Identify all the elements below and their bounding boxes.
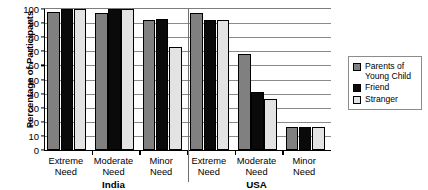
- bar: [312, 127, 325, 150]
- legend: Parents of Young ChildFriendStranger: [348, 56, 422, 110]
- bar: [74, 9, 87, 150]
- bar: [95, 13, 108, 150]
- bar-group: [283, 9, 331, 150]
- legend-label: Friend: [365, 83, 389, 93]
- x-axis-tick: [235, 151, 236, 155]
- legend-item[interactable]: Parents of Young Child: [353, 62, 416, 81]
- y-tick-label-70: 70: [17, 46, 39, 57]
- bar: [61, 9, 74, 150]
- y-tick-label-10: 10: [17, 130, 39, 141]
- plot-area: 1009080706050403020100: [44, 9, 331, 151]
- y-tick-label-60: 60: [17, 60, 39, 71]
- y-tick-label-80: 80: [17, 32, 39, 43]
- bar-group: [236, 9, 284, 150]
- country-label-india: India: [64, 179, 164, 190]
- y-tick-label-50: 50: [17, 74, 39, 85]
- x-axis-tick: [187, 151, 188, 155]
- bar: [204, 20, 217, 150]
- x-axis-tick: [92, 151, 93, 155]
- legend-swatch-icon: [353, 63, 361, 71]
- legend-item[interactable]: Friend: [353, 83, 416, 93]
- y-tick-label-0: 0: [17, 145, 39, 156]
- bar-group: [93, 9, 141, 150]
- y-tick-label-20: 20: [17, 116, 39, 127]
- bar-group: [45, 9, 93, 150]
- bar: [251, 92, 264, 150]
- legend-label: Parents of Young Child: [365, 62, 411, 81]
- bar: [217, 20, 230, 150]
- legend-item[interactable]: Stranger: [353, 95, 416, 105]
- y-tick-label-100: 100: [17, 4, 39, 15]
- bar-group: [140, 9, 188, 150]
- x-axis-tick: [139, 151, 140, 155]
- bar: [286, 127, 299, 150]
- bar: [238, 54, 251, 150]
- x-axis-tick: [282, 151, 283, 155]
- bar: [156, 19, 169, 150]
- legend-swatch-icon: [353, 96, 361, 104]
- legend-swatch-icon: [353, 84, 361, 92]
- bar: [264, 99, 277, 150]
- legend-label: Stranger: [365, 95, 398, 105]
- y-tick-label-40: 40: [17, 88, 39, 99]
- bar-group: [188, 9, 236, 150]
- bar: [108, 9, 121, 150]
- bar: [47, 12, 60, 150]
- bar: [299, 127, 312, 150]
- bar: [143, 20, 156, 150]
- bar-chart: Percentage of Participants 1009080706050…: [0, 0, 428, 190]
- bar: [121, 9, 134, 150]
- bar: [169, 47, 182, 150]
- y-tick-label-90: 90: [17, 18, 39, 29]
- country-label-usa: USA: [207, 179, 307, 190]
- x-axis-label: MinorNeed: [264, 156, 344, 177]
- bar: [190, 13, 203, 150]
- y-tick-label-30: 30: [17, 102, 39, 113]
